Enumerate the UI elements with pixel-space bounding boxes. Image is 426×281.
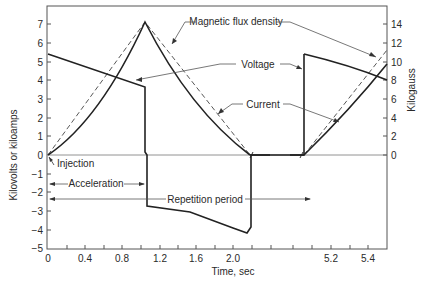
tick-label: 5.4 <box>361 253 375 264</box>
flux-density-curve <box>48 22 250 155</box>
right-y-tick-labels: 14 12 10 8 6 4 2 0 <box>391 19 403 161</box>
tick-label: 6 <box>391 94 397 105</box>
tick-label: 3 <box>37 94 43 105</box>
annotation-voltage: Voltage <box>136 59 302 82</box>
tick-label: 4 <box>37 75 43 86</box>
annotation-flux: Magnetic flux density <box>172 16 376 57</box>
tick-label: 7 <box>37 19 43 30</box>
tick-label: 4 <box>391 113 397 124</box>
tick-label: −3 <box>32 206 44 217</box>
x-tick-labels: 0 0.4 0.8 1.2 1.6 2.0 5.2 5.4 <box>45 253 375 264</box>
annotation-injection: Injection <box>49 157 94 169</box>
left-y-axis-title: Kilovolts or kiloamps <box>8 109 19 200</box>
tick-label: 2 <box>37 113 43 124</box>
tick-label: 5 <box>37 57 43 68</box>
right-y-ticks <box>383 24 387 155</box>
tick-label: 1.2 <box>153 253 167 264</box>
tick-label: −5 <box>32 243 44 254</box>
tick-label: 5.2 <box>324 253 338 264</box>
tick-label: 8 <box>391 75 397 86</box>
tick-label: 2 <box>391 131 397 142</box>
current-curve <box>48 22 250 155</box>
repetition-period-label: Repetition period <box>167 194 243 205</box>
plot-frame <box>47 6 387 249</box>
tick-label: −2 <box>32 187 44 198</box>
annotation-current: Current <box>218 99 339 122</box>
tick-label: 2.0 <box>226 253 240 264</box>
voltage-curve-2 <box>304 54 387 80</box>
flux-label: Magnetic flux density <box>189 16 282 27</box>
tick-label: −1 <box>32 169 44 180</box>
x-axis-title: Time, sec <box>212 266 255 277</box>
right-y-axis-title: Kilogauss <box>406 68 417 111</box>
tick-label: 1.6 <box>189 253 203 264</box>
tick-label: 12 <box>391 38 403 49</box>
current-label: Current <box>246 99 280 110</box>
acceleration-label: Acceleration <box>68 178 123 189</box>
chart: 7 6 5 4 3 2 1 0 −1 −2 −3 −4 −5 14 12 10 … <box>0 0 426 281</box>
voltage-label: Voltage <box>241 59 275 70</box>
voltage-curve <box>48 54 304 233</box>
tick-label: 0 <box>391 150 397 161</box>
current-curve-2 <box>304 64 387 155</box>
tick-label: 0 <box>45 253 51 264</box>
tick-label: 1 <box>37 131 43 142</box>
tick-label: 10 <box>391 57 403 68</box>
annotation-repetition-period: Repetition period <box>49 194 311 205</box>
annotation-acceleration: Acceleration <box>49 178 145 189</box>
tick-label: 0.8 <box>115 253 129 264</box>
injection-label: Injection <box>57 158 94 169</box>
tick-label: 14 <box>391 19 403 30</box>
left-y-tick-labels: 7 6 5 4 3 2 1 0 −1 −2 −3 −4 −5 <box>32 19 44 254</box>
tick-label: 0.4 <box>78 253 92 264</box>
tick-label: 6 <box>37 38 43 49</box>
tick-label: 0 <box>37 150 43 161</box>
tick-label: −4 <box>32 225 44 236</box>
x-ticks <box>67 245 368 249</box>
